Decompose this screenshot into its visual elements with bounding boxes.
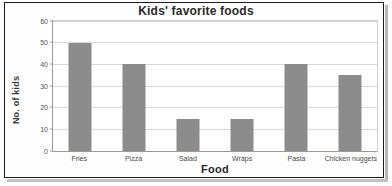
bar-slot	[269, 21, 323, 151]
bar	[231, 119, 254, 152]
y-axis-tick-label: 50	[40, 39, 48, 46]
x-axis-tick-label: Fries	[51, 154, 107, 163]
x-axis-tick-label: Wraps	[214, 154, 270, 163]
bar	[285, 64, 308, 151]
plot-area: 0102030405060	[52, 20, 378, 152]
bar-series	[53, 21, 377, 151]
x-axis-tick-label: Pasta	[269, 154, 325, 163]
y-axis-tick-label: 0	[44, 147, 48, 154]
bar-slot	[53, 21, 107, 151]
bar	[123, 64, 146, 151]
y-axis-tick-label: 20	[40, 104, 48, 111]
y-axis-tick-label: 30	[40, 82, 48, 89]
figure-shadow-right	[385, 5, 388, 181]
x-axis-tick-label: Pizza	[106, 154, 162, 163]
bar-chart-figure: Kids' favorite foods No. of kids 0102030…	[0, 0, 392, 186]
y-axis-tick-label: 10	[40, 125, 48, 132]
bar-slot	[323, 21, 377, 151]
x-axis-tick-label: Chicken nuggets	[323, 154, 379, 163]
bar-slot	[161, 21, 215, 151]
x-axis-tick-label: Salad	[160, 154, 216, 163]
bar-slot	[107, 21, 161, 151]
bar	[339, 75, 362, 151]
bar-slot	[215, 21, 269, 151]
y-axis-tick-label: 60	[40, 17, 48, 24]
y-axis-tick-label: 40	[40, 60, 48, 67]
bar	[177, 119, 200, 152]
x-axis-title: Food	[52, 163, 378, 175]
chart-title: Kids' favorite foods	[0, 4, 392, 18]
bar	[69, 43, 92, 151]
y-axis-title: No. of kids	[11, 55, 21, 145]
